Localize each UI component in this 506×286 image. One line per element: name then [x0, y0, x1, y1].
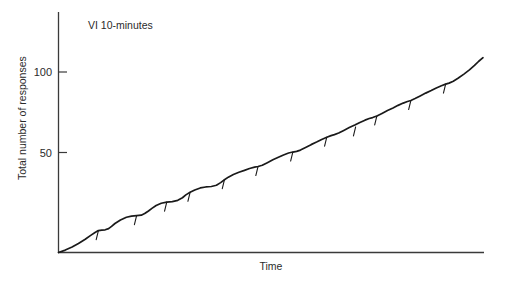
cumulative-record-chart: 100 50 Total number of responses Time VI…	[0, 0, 506, 286]
y-axis-title: Total number of responses	[16, 56, 28, 180]
reinforcement-pip	[134, 216, 136, 225]
reinforcement-pip	[353, 127, 355, 136]
cumulative-response-line	[59, 58, 484, 253]
y-tick-label-50: 50	[40, 147, 52, 159]
reinforcement-pip	[165, 202, 167, 211]
reinforcement-pip	[291, 152, 293, 161]
x-axis-title: Time	[260, 260, 283, 272]
y-tick-label-100: 100	[34, 66, 52, 78]
chart-page: 100 50 Total number of responses Time VI…	[0, 0, 506, 286]
schedule-annotation: VI 10-minutes	[88, 19, 153, 31]
reinforcement-pip	[256, 167, 258, 176]
